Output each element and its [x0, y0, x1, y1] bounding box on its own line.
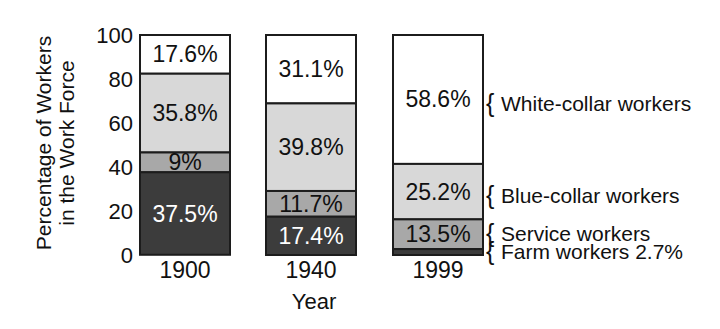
bar-segment-farm-workers-1999 [393, 249, 483, 255]
y-axis-title-line: Percentage of Workers [32, 36, 55, 250]
x-tick-label: 1999 [412, 257, 463, 283]
stacked-bar-chart-figure: 020406080100Percentage of Workersin the … [0, 0, 720, 329]
segment-value-label: 13.5% [405, 221, 470, 247]
y-axis-title-line: in the Work Force [55, 60, 78, 225]
legend-brace: { [486, 181, 494, 209]
y-tick-label: 40 [109, 155, 133, 180]
segment-value-label: 39.8% [278, 134, 343, 160]
y-tick-label: 20 [109, 199, 133, 224]
y-axis-title: Percentage of Workersin the Work Force [32, 36, 78, 250]
legend-brace: { [486, 89, 494, 117]
segment-value-label: 17.6% [152, 41, 217, 67]
legend-brace: { [486, 237, 494, 265]
segment-value-label: 31.1% [278, 56, 343, 82]
y-tick-label: 60 [109, 111, 133, 136]
chart-canvas: 020406080100Percentage of Workersin the … [0, 0, 720, 329]
y-tick-label: 100 [96, 23, 133, 48]
segment-value-label: 11.7% [279, 191, 343, 217]
x-tick-label: 1900 [159, 257, 210, 283]
x-tick-label: 1940 [285, 257, 336, 283]
x-axis-title: Year [292, 289, 336, 314]
y-tick-label: 80 [109, 67, 133, 92]
segment-value-label: 58.6% [405, 86, 470, 112]
legend-label: Blue-collar workers [501, 184, 680, 207]
segment-value-label: 35.8% [152, 100, 217, 126]
segment-value-label: 25.2% [405, 179, 470, 205]
segment-value-label: 37.5% [152, 201, 217, 227]
legend-label: Farm workers 2.7% [501, 240, 683, 263]
segment-value-label: 17.4% [278, 223, 343, 249]
y-tick-label: 0 [121, 243, 133, 268]
legend-label: White-collar workers [501, 92, 691, 115]
